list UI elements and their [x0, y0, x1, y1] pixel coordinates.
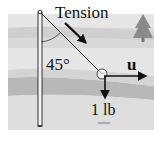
weight-label: 1 lb: [91, 101, 115, 118]
u-vector-label: u: [127, 55, 136, 74]
tension-label: Tension: [55, 3, 109, 22]
pole-icon: [38, 10, 43, 127]
tetherball-force-diagram: Tension 45° u 1 lb: [0, 0, 154, 145]
angle-label: 45°: [46, 55, 70, 74]
